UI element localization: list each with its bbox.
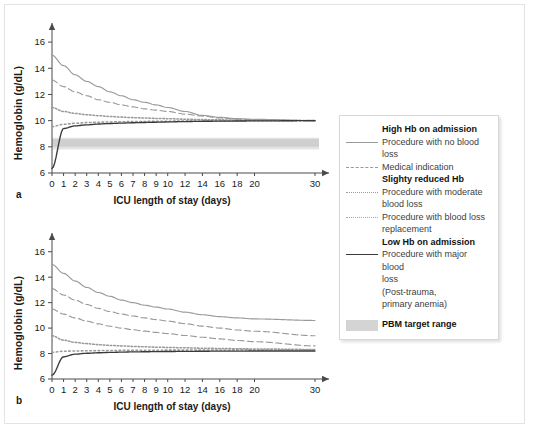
x-tick-label: 20 [249, 384, 260, 395]
legend-entry-label-continuation: (Post-trauma, [382, 286, 491, 299]
legend-entry[interactable]: Procedure with moderate [346, 186, 491, 199]
legend-entry-label-continuation: replacement [382, 223, 491, 236]
legend-sample-dashed-gray [346, 161, 378, 174]
legend-entry-label: Procedure with no blood loss [382, 136, 491, 161]
figure-frame: Hemoglobin (g/dL) 6810121416012345678910… [4, 4, 525, 424]
y-tick-label: 6 [40, 167, 45, 178]
x-axis-arrow [322, 376, 329, 382]
x-tick-label: 16 [215, 178, 226, 189]
legend-entry-label: Procedure with major blood [382, 248, 491, 273]
x-tick-label: 6 [119, 178, 124, 189]
x-tick-label: 8 [142, 384, 147, 395]
y-tick-label: 14 [34, 272, 45, 283]
x-tick-label: 18 [232, 384, 243, 395]
x-tick-label: 9 [153, 178, 158, 189]
legend-entry[interactable]: Procedure with major blood [346, 248, 491, 273]
x-tick-label: 30 [310, 384, 321, 395]
x-tick-label: 1 [61, 384, 66, 395]
pbm-target-range-band [52, 139, 319, 147]
panel-b-x-axis-label: ICU length of stay (days) [27, 401, 317, 412]
x-tick-label: 10 [162, 178, 173, 189]
x-tick-label: 0 [49, 178, 54, 189]
y-tick-label: 8 [40, 141, 45, 152]
legend-entry[interactable]: Medical indication [346, 161, 491, 174]
x-tick-label: 12 [180, 384, 191, 395]
x-tick-label: 12 [180, 178, 191, 189]
y-tick-label: 6 [40, 373, 45, 384]
panel-b-letter: b [16, 395, 22, 406]
x-tick-label: 7 [130, 178, 135, 189]
x-tick-label: 2 [72, 384, 77, 395]
legend-entry-label-continuation: primary anemia) [382, 298, 491, 311]
y-tick-label: 10 [34, 115, 45, 126]
legend-entry-label-continuation: loss [382, 273, 491, 286]
x-tick-label: 5 [107, 384, 112, 395]
legend-group-heading: Slighty reduced Hb [382, 173, 491, 186]
chart-panel-b: Hemoglobin (g/dL) 6810121416012345678910… [5, 221, 335, 425]
x-tick-label: 3 [84, 178, 89, 189]
y-tick-label: 10 [34, 322, 45, 333]
x-tick-label: 20 [249, 178, 260, 189]
x-tick-label: 2 [72, 178, 77, 189]
y-tick-label: 14 [34, 63, 45, 74]
chart-legend: High Hb on admissionProcedure with no bl… [339, 115, 499, 340]
y-tick-label: 16 [34, 36, 45, 47]
legend-group-heading: Low Hb on admission [382, 236, 491, 249]
y-tick-label: 8 [40, 348, 45, 359]
series-line [52, 264, 315, 320]
x-axis-arrow [322, 170, 329, 176]
x-tick-label: 4 [96, 384, 101, 395]
x-tick-label: 4 [96, 178, 101, 189]
legend-entry-label-continuation: blood loss [382, 198, 491, 211]
panel-a-letter: a [16, 189, 22, 200]
legend-sample-solid-dark [346, 248, 378, 261]
x-tick-label: 6 [119, 384, 124, 395]
series-line [52, 55, 315, 120]
x-tick-label: 8 [142, 178, 147, 189]
y-tick-label: 12 [34, 297, 45, 308]
x-tick-label: 9 [153, 384, 158, 395]
legend-sample-solid-gray [346, 136, 378, 149]
legend-entry[interactable]: Procedure with no blood loss [346, 136, 491, 161]
x-tick-label: 0 [49, 384, 54, 395]
x-tick-label: 10 [162, 384, 173, 395]
y-tick-label: 12 [34, 89, 45, 100]
y-axis-arrow [49, 233, 55, 240]
x-tick-label: 7 [130, 384, 135, 395]
x-tick-label: 1 [61, 178, 66, 189]
legend-entry[interactable]: Procedure with blood loss [346, 211, 491, 224]
chart-panel-a: Hemoglobin (g/dL) 6810121416012345678910… [5, 7, 335, 219]
x-tick-label: 16 [215, 384, 226, 395]
panel-a-plot: 6810121416012345678910121416182030 [5, 7, 335, 219]
legend-entry-band[interactable]: PBM target range [346, 318, 491, 331]
legend-entry-label: Procedure with moderate [382, 186, 483, 199]
x-tick-label: 3 [84, 384, 89, 395]
y-axis-arrow [49, 23, 55, 30]
series-line [52, 309, 315, 346]
legend-entry-label: Medical indication [382, 161, 454, 174]
panel-b-plot: 6810121416012345678910121416182030 [5, 221, 335, 425]
x-tick-label: 14 [197, 384, 208, 395]
x-tick-label: 14 [197, 178, 208, 189]
legend-swatch-pbm-band [346, 320, 378, 331]
legend-sample-dotted-fine [346, 186, 378, 199]
legend-sample-dotted-coarse [346, 211, 378, 224]
legend-spacer [346, 311, 491, 318]
y-tick-label: 16 [34, 246, 45, 257]
x-tick-label: 30 [310, 178, 321, 189]
legend-band-label: PBM target range [382, 318, 457, 331]
legend-group-heading: High Hb on admission [382, 123, 491, 136]
series-line [52, 351, 315, 375]
x-tick-label: 18 [232, 178, 243, 189]
x-tick-label: 5 [107, 178, 112, 189]
panel-a-x-axis-label: ICU length of stay (days) [27, 195, 317, 206]
legend-entry-label: Procedure with blood loss [382, 211, 485, 224]
